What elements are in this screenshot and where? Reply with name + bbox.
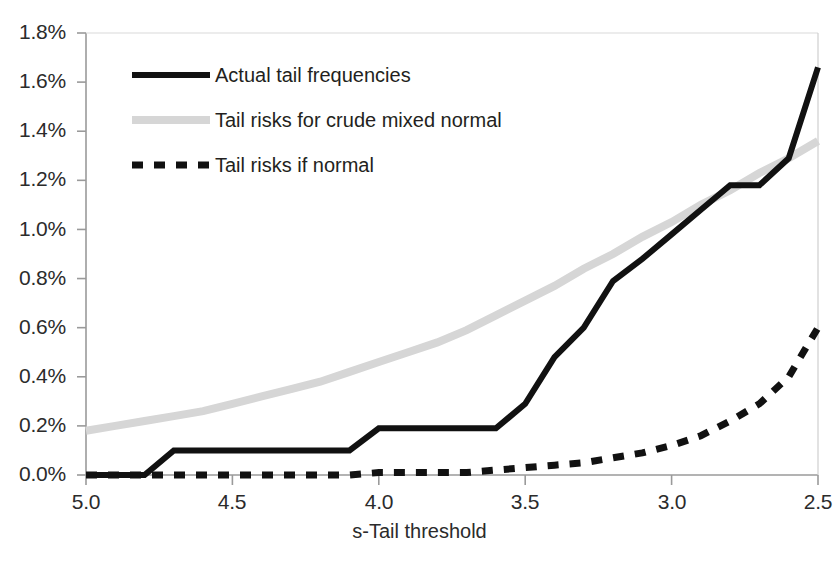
- x-axis-ticks: [86, 475, 818, 485]
- series-line: [86, 141, 818, 431]
- y-axis-ticks: [77, 33, 86, 475]
- plot-area: [0, 0, 839, 563]
- data-series-group: [86, 67, 818, 475]
- chart-figure: 1.8% 1.6% 1.4% 1.2% 1.0% 0.8% 0.6% 0.4% …: [0, 0, 839, 563]
